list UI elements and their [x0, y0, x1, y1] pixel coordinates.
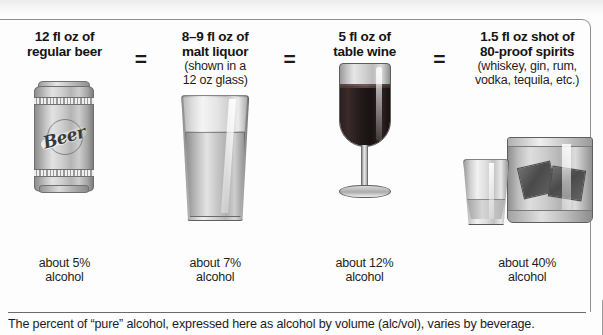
illustration-regular-beer: Beer	[0, 59, 129, 207]
heading-sub-line-2: 12 oz glass)	[153, 73, 278, 87]
column-heading-malt-liquor: 8–9 fl oz of malt liquor (shown in a 12 …	[153, 24, 278, 87]
standard-drink-equivalents-infographic: 12 fl oz of regular beer Beer about 5% a…	[0, 0, 603, 335]
rocks-glass-highlight	[562, 144, 571, 218]
heading-line-2: malt liquor	[153, 44, 278, 59]
heading-sub-line-1: (whiskey, gin, rum,	[451, 59, 603, 73]
drink-column-malt-liquor: 8–9 fl oz of malt liquor (shown in a 12 …	[153, 24, 278, 296]
beer-can-foot	[39, 185, 89, 193]
scan-artifact-band	[0, 0, 603, 16]
illustration-spirits	[451, 87, 603, 235]
wine-glass-base	[339, 185, 391, 198]
column-heading-regular-beer: 12 fl oz of regular beer	[0, 24, 129, 59]
wine-glass-surface	[340, 84, 390, 88]
heading-line-1: 12 fl oz of	[0, 29, 129, 44]
abv-label-regular-beer: about 5% alcohol	[0, 256, 129, 284]
abv-label-malt-liquor: about 7% alcohol	[153, 256, 278, 284]
rocks-glass	[507, 137, 593, 223]
abv-label-spirits: about 40% alcohol	[451, 256, 603, 284]
wine-glass-stem	[361, 145, 368, 189]
rocks-glass-base	[508, 210, 592, 222]
abv-line-1: about 5%	[0, 256, 129, 270]
wine-glass-bowl	[339, 63, 391, 147]
abv-line-2: alcohol	[302, 270, 428, 284]
footnote-text: The percent of “pure” alcohol, expressed…	[8, 317, 598, 333]
shot-glass-icon	[459, 137, 595, 229]
illustration-malt-liquor	[153, 87, 278, 235]
illustration-table-wine	[302, 59, 428, 207]
drink-column-regular-beer: 12 fl oz of regular beer Beer about 5% a…	[0, 24, 129, 296]
shot-glass-highlight	[489, 163, 494, 219]
equals-sign: =	[278, 48, 302, 69]
equals-sign: =	[428, 48, 452, 69]
equals-separator-2: =	[278, 24, 302, 296]
wine-glass-fill	[340, 86, 390, 147]
beer-can-bottom-ribbing	[34, 169, 94, 177]
equals-sign: =	[129, 48, 153, 69]
wine-glass-highlight	[376, 67, 382, 141]
beer-can-top-ribbing	[34, 97, 94, 105]
beer-can-icon: Beer	[34, 81, 94, 197]
abv-line-1: about 7%	[153, 256, 278, 270]
heading-line-1: 5 fl oz of	[302, 29, 428, 44]
equals-separator-1: =	[129, 24, 153, 296]
column-heading-spirits: 1.5 fl oz shot of 80-proof spirits (whis…	[451, 24, 603, 87]
heading-line-1: 8–9 fl oz of	[153, 29, 278, 44]
column-heading-table-wine: 5 fl oz of table wine	[302, 24, 428, 59]
abv-line-2: alcohol	[451, 270, 603, 284]
wine-glass-icon	[328, 63, 402, 205]
equals-separator-3: =	[428, 24, 452, 296]
shot-glass-fill	[467, 199, 505, 219]
pint-glass-icon	[181, 95, 249, 223]
drink-columns: 12 fl oz of regular beer Beer about 5% a…	[0, 24, 603, 296]
rocks-glass-rim	[508, 138, 592, 147]
heading-sub-line-1: (shown in a	[153, 59, 278, 73]
heading-line-1: 1.5 fl oz shot of	[451, 29, 603, 44]
pint-glass-foam-head	[183, 97, 247, 131]
drink-column-spirits: 1.5 fl oz shot of 80-proof spirits (whis…	[451, 24, 603, 296]
footnote-divider	[8, 312, 586, 313]
heading-line-2: regular beer	[0, 44, 129, 59]
abv-line-2: alcohol	[153, 270, 278, 284]
heading-line-2: table wine	[302, 44, 428, 59]
abv-line-1: about 40%	[451, 256, 603, 270]
abv-line-1: about 12%	[302, 256, 428, 270]
heading-line-2: 80-proof spirits	[451, 44, 603, 59]
pint-glass-liquid	[185, 132, 245, 217]
heading-sub-line-2: vodka, tequila, etc.)	[451, 73, 603, 87]
drink-column-table-wine: 5 fl oz of table wine about 12% alcohol	[302, 24, 428, 296]
abv-line-2: alcohol	[0, 270, 129, 284]
abv-label-table-wine: about 12% alcohol	[302, 256, 428, 284]
